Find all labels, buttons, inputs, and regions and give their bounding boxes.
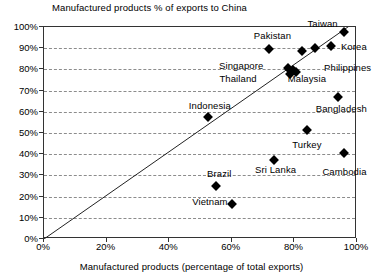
gridline-y [44,48,355,49]
y-tick-mark [39,174,43,175]
point-label: Bangladesh [316,102,367,113]
x-tick-label: 0% [36,241,50,252]
point-label: Pakistan [254,30,291,41]
data-point-marker [264,44,274,54]
x-tick-label: 80% [284,241,303,252]
point-label: Indonesia [189,100,231,111]
y-tick-mark [39,68,43,69]
y-tick-mark [39,26,43,27]
data-point-marker [310,43,320,53]
y-tick-mark [39,47,43,48]
y-tick-label: 60% [0,105,38,116]
data-point-marker [340,27,350,37]
y-tick-mark [39,132,43,133]
y-tick-label: 70% [0,84,38,95]
gridline-y [44,91,355,92]
y-tick-label: 10% [0,211,38,222]
x-tick-mark [168,238,169,242]
data-point-marker [203,112,213,122]
gridline-y [44,154,355,155]
x-tick-label: 20% [96,241,115,252]
x-tick-label: 60% [221,241,240,252]
gridline-y [44,112,355,113]
point-label: Vietnam [192,195,227,206]
point-label: Malaysia [288,72,326,83]
point-label: Cambodia [322,166,366,177]
y-tick-mark [39,196,43,197]
y-tick-label: 30% [0,169,38,180]
y-tick-label: 80% [0,63,38,74]
y-tick-label: 50% [0,127,38,138]
data-point-marker [333,92,343,102]
point-label: Korea [341,41,367,52]
data-point-marker [340,148,350,158]
plot-area: TaiwanKoreaPakistanPhilippinesSingaporeT… [43,26,356,238]
chart-title: Manufactured products % of exports to Ch… [52,2,247,13]
x-tick-mark [106,238,107,242]
point-label: Turkey [292,138,321,149]
gridline-y [44,69,355,70]
y-tick-label: 100% [0,21,38,32]
x-tick-label: 100% [344,241,368,252]
x-tick-mark [356,238,357,242]
x-axis-label: Manufactured products (percentage of tot… [0,261,383,272]
point-label: Singapore [219,60,263,71]
point-label: Sri Lanka [255,164,296,175]
x-tick-mark [43,238,44,242]
y-tick-label: 90% [0,42,38,53]
x-tick-mark [231,238,232,242]
y-tick-mark [39,153,43,154]
data-point-marker [326,41,336,51]
data-point-marker [211,181,221,191]
gridline-y [44,218,355,219]
y-tick-label: 20% [0,190,38,201]
x-tick-label: 40% [159,241,178,252]
y-tick-label: 0% [0,233,38,244]
point-label: Thailand [219,72,256,83]
y-tick-label: 40% [0,148,38,159]
x-tick-mark [293,238,294,242]
data-point-marker [227,199,237,209]
y-tick-mark [39,217,43,218]
point-label: Brazil [207,168,231,179]
gridline-y [44,175,355,176]
y-tick-mark [39,111,43,112]
point-label: Philippines [324,62,371,73]
chart-container: Manufactured products % of exports to Ch… [0,0,383,280]
point-label: Taiwan [307,17,337,28]
y-tick-mark [39,90,43,91]
